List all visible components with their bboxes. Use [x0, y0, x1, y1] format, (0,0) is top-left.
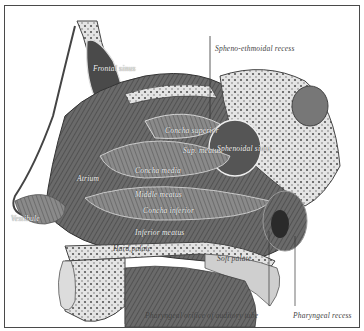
- label-vestibule: Vestibule: [11, 214, 40, 223]
- label-pharyngeal-orifice: Pharyngeal orifice of auditory tube: [145, 311, 258, 320]
- nasal-cavity-illustration: [5, 6, 359, 327]
- label-frontal-sinus: Frontal sinus: [93, 64, 136, 73]
- label-soft-palate: Soft palate: [217, 254, 252, 263]
- label-spheno-ethmoidal-recess: Spheno-ethmoidal recess: [215, 44, 295, 53]
- figure-frame: Frontal sinus Spheno-ethmoidal recess Sp…: [4, 5, 360, 328]
- label-concha-superior: Concha superior: [165, 126, 219, 135]
- sella-region: [292, 86, 328, 126]
- label-concha-inferior: Concha inferior: [143, 206, 194, 215]
- incisor-region: [58, 261, 75, 310]
- label-sphenoidal-sinus: Sphenoidal sinus: [217, 144, 271, 153]
- label-concha-media: Concha media: [135, 166, 181, 175]
- label-atrium: Atrium: [77, 174, 99, 183]
- label-hard-palate: Hard palate: [113, 244, 151, 253]
- label-pharyngeal-recess: Pharyngeal recess: [293, 311, 352, 320]
- auditory-tube-orifice: [271, 210, 289, 238]
- label-inferior-meatus: Inferior meatus: [135, 228, 184, 237]
- label-superior-meatus: Sup. meatus: [183, 146, 221, 155]
- label-middle-meatus: Middle meatus: [135, 190, 182, 199]
